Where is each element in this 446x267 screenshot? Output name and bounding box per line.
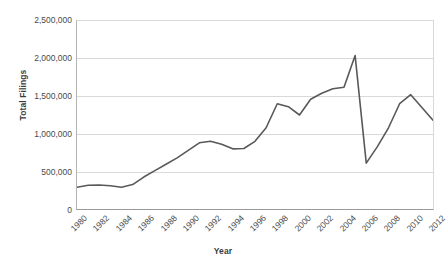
- x-axis-tick-labels: 1980198219841986198819901992199419961998…: [0, 0, 446, 267]
- chart-container: Total Filings 2,500,000 2,000,000 1,500,…: [0, 0, 446, 267]
- x-axis-title: Year: [0, 246, 446, 256]
